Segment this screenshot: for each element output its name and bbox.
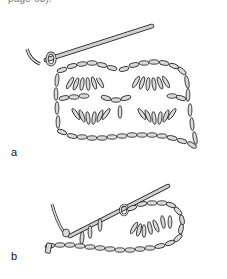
figure-b [45,186,185,253]
figure-label-b: b [11,250,17,262]
crochet-hook-icon [70,186,168,236]
figure-label-a: a [11,146,17,158]
figure-a [27,26,198,149]
crochet-hook-icon [46,26,152,60]
crochet-illustrations [0,0,227,279]
